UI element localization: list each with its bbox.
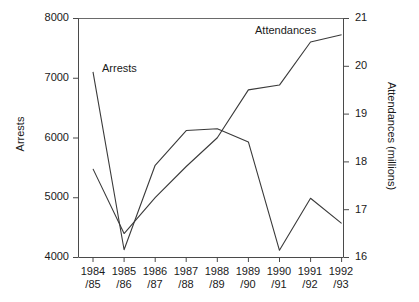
series-annotation-attendances: Attendances: [255, 24, 316, 36]
x-tick-label-8: 1992 /93: [324, 265, 358, 290]
series-line-arrests: [93, 72, 342, 250]
y-tick-label-8000: 8000: [35, 11, 69, 23]
x-axis-ticks: [93, 258, 342, 263]
y-tick-label-6000: 6000: [35, 131, 69, 143]
x-tick-label-5: 1989 /90: [231, 265, 265, 290]
y-tick-label-7000: 7000: [35, 71, 69, 83]
y2-tick-label-16: 16: [355, 250, 381, 262]
series-annotation-arrests: Arrests: [102, 62, 137, 74]
y2-tick-label-21: 21: [355, 11, 381, 23]
x-tick-label-3-season: /88: [169, 278, 203, 291]
y-tick-label-4000: 4000: [35, 250, 69, 262]
x-tick-label-3-year: 1987: [169, 265, 203, 278]
y-axis-right-ticks: [344, 19, 350, 258]
x-tick-label-4: 1988 /89: [200, 265, 234, 290]
x-tick-label-0-year: 1984: [76, 265, 110, 278]
x-tick-label-7-year: 1991: [293, 265, 327, 278]
x-tick-label-8-year: 1992: [324, 265, 358, 278]
x-tick-label-0-season: /85: [76, 278, 110, 291]
x-tick-label-2: 1986 /87: [138, 265, 172, 290]
y-axis-left-title: Arrests: [14, 94, 26, 174]
y2-tick-label-20: 20: [355, 59, 381, 71]
x-tick-label-2-season: /87: [138, 278, 172, 291]
y-tick-label-5000: 5000: [35, 190, 69, 202]
x-tick-label-5-season: /90: [231, 278, 265, 291]
chart-figure: Arrests Attendances (millions) 8000 7000…: [0, 0, 419, 302]
x-tick-label-2-year: 1986: [138, 265, 172, 278]
x-tick-label-1: 1985 /86: [107, 265, 141, 290]
y2-tick-label-18: 18: [355, 155, 381, 167]
x-tick-label-3: 1987 /88: [169, 265, 203, 290]
y2-tick-label-17: 17: [355, 203, 381, 215]
y2-tick-label-19: 19: [355, 107, 381, 119]
x-tick-label-7-season: /92: [293, 278, 327, 291]
x-tick-label-6-season: /91: [262, 278, 296, 291]
y-axis-left-ticks: [73, 19, 79, 258]
x-tick-label-5-year: 1989: [231, 265, 265, 278]
x-tick-label-4-year: 1988: [200, 265, 234, 278]
x-tick-label-6: 1990 /91: [262, 265, 296, 290]
y-axis-right-title: Attendances (millions): [386, 56, 398, 216]
x-tick-label-4-season: /89: [200, 278, 234, 291]
x-tick-label-0: 1984 /85: [76, 265, 110, 290]
x-tick-label-6-year: 1990: [262, 265, 296, 278]
x-tick-label-8-season: /93: [324, 278, 358, 291]
x-tick-label-1-year: 1985: [107, 265, 141, 278]
x-tick-label-1-season: /86: [107, 278, 141, 291]
x-tick-label-7: 1991 /92: [293, 265, 327, 290]
